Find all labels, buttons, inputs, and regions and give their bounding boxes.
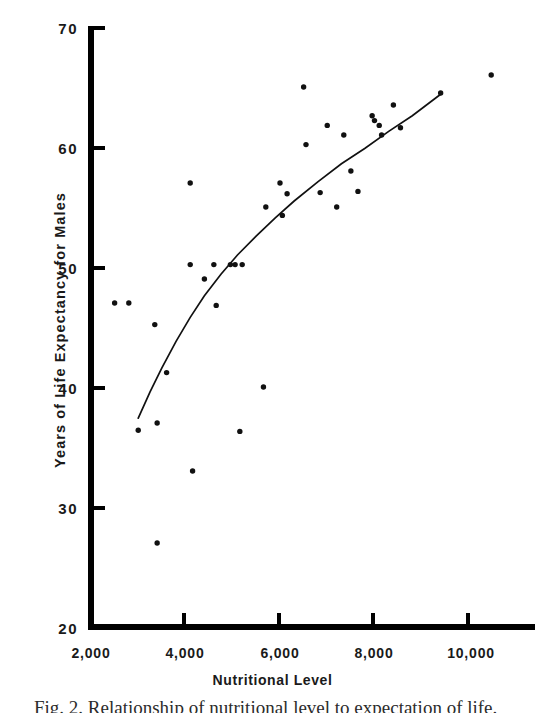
figure-caption: Fig. 2. Relationship of nutritional leve… xyxy=(34,697,524,713)
data-point xyxy=(325,123,330,128)
data-point xyxy=(214,303,219,308)
x-tick-label: 8,000 xyxy=(354,646,393,660)
y-tick-label: 70 xyxy=(38,21,78,36)
data-point xyxy=(232,262,237,267)
scatter-plot xyxy=(0,0,545,713)
x-axis-label: Nutritional Level xyxy=(0,672,545,688)
data-point xyxy=(355,189,360,194)
data-point xyxy=(277,180,282,185)
data-point xyxy=(301,84,306,89)
data-point xyxy=(372,118,377,123)
data-point xyxy=(188,180,193,185)
data-point xyxy=(377,123,382,128)
data-point xyxy=(280,213,285,218)
data-point xyxy=(317,190,322,195)
fit-curve xyxy=(138,94,440,418)
data-point xyxy=(348,168,353,173)
data-point xyxy=(284,191,289,196)
data-point xyxy=(379,132,384,137)
data-point xyxy=(136,428,141,433)
figure-panel: 70 60 50 40 30 20 2,000 4,000 6,000 8,00… xyxy=(0,0,545,713)
data-point xyxy=(334,204,339,209)
data-point xyxy=(126,300,131,305)
y-axis-label: Years of Life Expectancy for Males xyxy=(52,120,68,540)
data-point xyxy=(240,262,245,267)
data-point xyxy=(369,113,374,118)
data-point xyxy=(489,72,494,77)
x-tick-label: 2,000 xyxy=(71,646,110,660)
data-point xyxy=(202,276,207,281)
data-point xyxy=(237,429,242,434)
y-axis-ticks xyxy=(94,26,105,510)
x-tick-label: 10,000 xyxy=(447,646,495,660)
data-point xyxy=(188,262,193,267)
data-point xyxy=(303,142,308,147)
data-point xyxy=(112,300,117,305)
data-points xyxy=(112,72,494,545)
data-point xyxy=(398,125,403,130)
data-point xyxy=(152,322,157,327)
data-point xyxy=(154,420,159,425)
data-point xyxy=(341,132,346,137)
data-point xyxy=(438,90,443,95)
x-tick-label: 6,000 xyxy=(260,646,299,660)
data-point xyxy=(211,262,216,267)
x-axis-ticks xyxy=(182,613,470,625)
axis-lines xyxy=(88,26,535,630)
data-point xyxy=(261,384,266,389)
data-point xyxy=(228,262,233,267)
data-point xyxy=(391,102,396,107)
x-tick-label: 4,000 xyxy=(165,646,204,660)
y-tick-label: 20 xyxy=(38,621,78,636)
data-point xyxy=(263,204,268,209)
data-point xyxy=(164,370,169,375)
data-point xyxy=(190,468,195,473)
data-point xyxy=(154,540,159,545)
